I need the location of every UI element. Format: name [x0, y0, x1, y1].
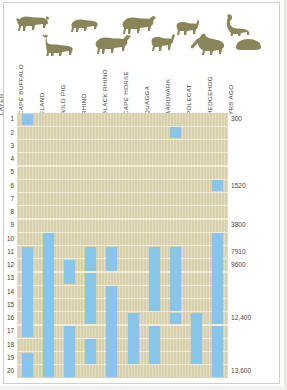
column-label-polecat: POLECAT: [185, 84, 192, 115]
quagga-silhouette: [147, 34, 175, 54]
layer-number-6: 6: [10, 183, 14, 189]
bar-polecat-layer-16-to-19: [191, 313, 202, 364]
wild-pig-silhouette: [70, 17, 98, 34]
bar-cape-buffalo-layer-1-to-1: [22, 114, 33, 125]
years-axis-title: YRS AGO: [227, 85, 234, 115]
bar-cape-buffalo-layer-11-to-17: [22, 247, 33, 337]
bar-aardvark-layer-11-to-15: [170, 247, 181, 311]
chart-page: LAYER CAPE BUFFALO ELAND WILD PIG RHINO …: [0, 0, 287, 390]
layer-number-axis: 1234567891011121314151617181920: [0, 113, 16, 378]
year-label-12400: 12,400: [231, 315, 251, 322]
layer-number-17: 17: [7, 328, 14, 334]
layer-axis-title: LAYER: [0, 93, 4, 115]
year-label-1520: 1520: [231, 183, 246, 190]
bar-cape-buffalo-layer-19-to-20: [22, 353, 33, 377]
layer-number-15: 15: [7, 302, 14, 308]
bar-black-rhino-layer-11-to-12: [106, 247, 117, 271]
polecat-silhouette: [222, 14, 252, 36]
column-label-hedgehog: HEDGEHOG: [206, 76, 213, 115]
layer-number-20: 20: [7, 368, 14, 374]
column-header-band: LAYER CAPE BUFFALO ELAND WILD PIG RHINO …: [0, 60, 287, 115]
aardvark-silhouette: [189, 33, 225, 56]
layer-number-11: 11: [7, 249, 14, 255]
bar-quagga-layer-17-to-19: [149, 326, 160, 363]
bar-wild-pig-layer-12-to-13: [64, 260, 75, 284]
year-label-300: 300: [231, 116, 242, 123]
gridline: [17, 126, 228, 127]
bar-quagga-layer-11-to-15: [149, 247, 160, 311]
layer-number-3: 3: [10, 143, 14, 149]
column-label-aardvark: AARDVARK: [164, 79, 171, 115]
years-ago-axis: 300152038007910960012,40013,600: [231, 113, 285, 383]
gridline: [17, 152, 228, 153]
stratigraphy-plot-area: [17, 113, 228, 378]
column-label-wild-pig: WILD PIG: [59, 84, 66, 115]
column-label-eland: ELAND: [38, 93, 45, 115]
layer-number-19: 19: [7, 355, 14, 361]
layer-number-7: 7: [10, 196, 14, 202]
hedgehog-silhouette: [234, 37, 262, 52]
layer-number-1: 1: [10, 116, 14, 122]
bar-black-rhino-layer-14-to-20: [106, 286, 117, 376]
gridline: [17, 192, 228, 193]
column-label-quagga: QUAGGA: [143, 86, 150, 115]
column-label-black-rhino: BLACK RHINO: [101, 69, 108, 115]
year-label-3800: 3800: [231, 222, 246, 229]
eland-silhouette: [42, 34, 74, 56]
gridline: [17, 205, 228, 206]
animal-silhouette-band: [16, 14, 266, 62]
layer-number-10: 10: [7, 236, 14, 242]
scan-edge-bottom: [0, 386, 287, 390]
layer-number-12: 12: [7, 262, 14, 268]
gridline: [17, 165, 228, 166]
cape-buffalo-silhouette: [16, 14, 50, 36]
bar-rhino-layer-13-to-16: [85, 273, 96, 324]
bar-aardvark-layer-2-to-2: [170, 127, 181, 138]
bar-aardvark-layer-16-to-16: [170, 313, 181, 324]
bar-cape-horse-layer-16-to-19: [128, 313, 139, 364]
layer-number-2: 2: [10, 130, 14, 136]
bar-eland-layer-10-to-20: [43, 233, 54, 376]
layer-number-18: 18: [7, 342, 14, 348]
layer-number-9: 9: [10, 222, 14, 228]
column-label-rhino: RHINO: [80, 93, 87, 115]
layer-number-13: 13: [7, 275, 14, 281]
bar-hedgehog-layer-17-to-20: [212, 326, 223, 377]
bar-hedgehog-layer-6-to-6: [212, 180, 223, 191]
year-label-13600: 13,600: [231, 368, 251, 375]
gridline: [17, 179, 228, 180]
layer-number-14: 14: [7, 289, 14, 295]
gridline: [17, 218, 228, 219]
black-rhino-silhouette: [94, 33, 132, 56]
gridline: [17, 139, 228, 140]
column-label-cape-horse: CAPE HORSE: [122, 71, 129, 115]
bar-wild-pig-layer-17-to-20: [64, 326, 75, 377]
column-label-cape-buffalo: CAPE BUFFALO: [17, 64, 24, 115]
year-label-7910: 7910: [231, 249, 246, 256]
layer-number-4: 4: [10, 156, 14, 162]
bar-rhino-layer-18-to-19: [85, 339, 96, 363]
layer-number-16: 16: [7, 315, 14, 321]
layer-number-8: 8: [10, 209, 14, 215]
bar-hedgehog-layer-10-to-16: [212, 233, 223, 323]
bar-rhino-layer-11-to-12: [85, 247, 96, 271]
layer-number-5: 5: [10, 169, 14, 175]
year-label-9600: 9600: [231, 262, 246, 269]
